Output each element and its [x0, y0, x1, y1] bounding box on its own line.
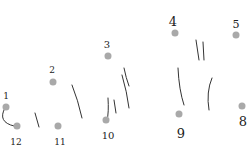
dot-label-1: 1 [3, 92, 9, 101]
sketch-line [114, 100, 116, 113]
sketch-line [196, 40, 199, 60]
dot-9 [176, 111, 183, 118]
sketch-strokes [0, 0, 248, 155]
dot-3 [105, 53, 112, 60]
dot-label-3: 3 [104, 40, 110, 50]
dot-5 [233, 32, 240, 39]
dot-label-12: 12 [10, 138, 21, 147]
dot-11 [55, 123, 62, 130]
dot-label-4: 4 [169, 15, 177, 28]
dot-label-10: 10 [102, 131, 115, 141]
sketch-line [35, 113, 39, 127]
dot-4 [172, 30, 179, 37]
connect-dots-canvas: 1234589101112 [0, 0, 248, 155]
dot-label-9: 9 [177, 127, 185, 140]
dot-2 [50, 79, 57, 86]
sketch-line [208, 78, 212, 110]
dot-10 [103, 117, 110, 124]
sketch-line [203, 42, 204, 60]
dot-12 [14, 123, 21, 130]
sketch-line [2, 108, 14, 126]
dot-8 [239, 103, 246, 110]
dot-label-5: 5 [233, 19, 240, 30]
dot-label-8: 8 [239, 115, 247, 128]
sketch-line [72, 85, 82, 118]
sketch-line [122, 75, 129, 108]
sketch-line [178, 68, 184, 105]
dot-1 [3, 104, 10, 111]
dot-label-2: 2 [49, 66, 55, 75]
dot-label-11: 11 [54, 138, 65, 147]
